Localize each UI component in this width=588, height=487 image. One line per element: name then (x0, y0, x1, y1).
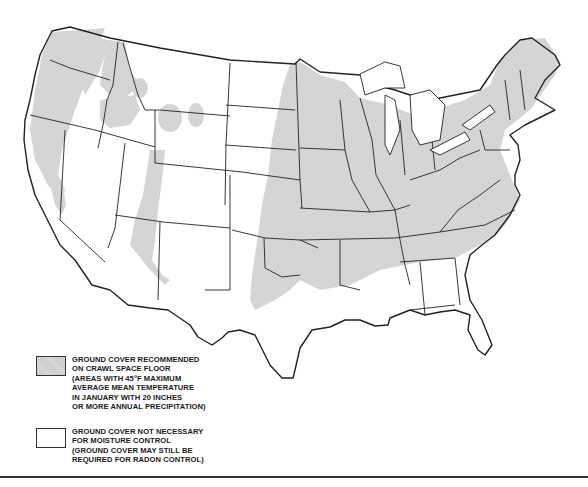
legend-item-clear: GROUND COVER NOT NECESSARY FOR MOISTURE … (36, 427, 204, 465)
us-map (0, 0, 588, 487)
legend-line: (AREAS WITH 45°F MAXIMUM (72, 374, 206, 383)
legend-line: GROUND COVER RECOMMENDED (72, 355, 206, 364)
bottom-rule (0, 476, 588, 478)
legend-item-shaded: GROUND COVER RECOMMENDED ON CRAWL SPACE … (36, 355, 206, 411)
shaded-swatch (36, 356, 66, 376)
legend-line: REQUIRED FOR RADON CONTROL) (72, 455, 204, 464)
clear-swatch (36, 428, 66, 448)
legend-text-clear: GROUND COVER NOT NECESSARY FOR MOISTURE … (72, 427, 204, 465)
legend-line: AVERAGE MEAN TEMPERATURE (72, 383, 206, 392)
legend-text-shaded: GROUND COVER RECOMMENDED ON CRAWL SPACE … (72, 355, 206, 411)
shaded-regions (30, 28, 560, 310)
legend-line: (GROUND COVER MAY STILL BE (72, 446, 204, 455)
legend-line: OR MORE ANNUAL PRECIPITATION) (72, 402, 206, 411)
legend-line: IN JANUARY WITH 20 INCHES (72, 393, 206, 402)
legend-line: FOR MOISTURE CONTROL (72, 436, 204, 445)
legend-line: GROUND COVER NOT NECESSARY (72, 427, 204, 436)
legend-line: ON CRAWL SPACE FLOOR (72, 364, 206, 373)
